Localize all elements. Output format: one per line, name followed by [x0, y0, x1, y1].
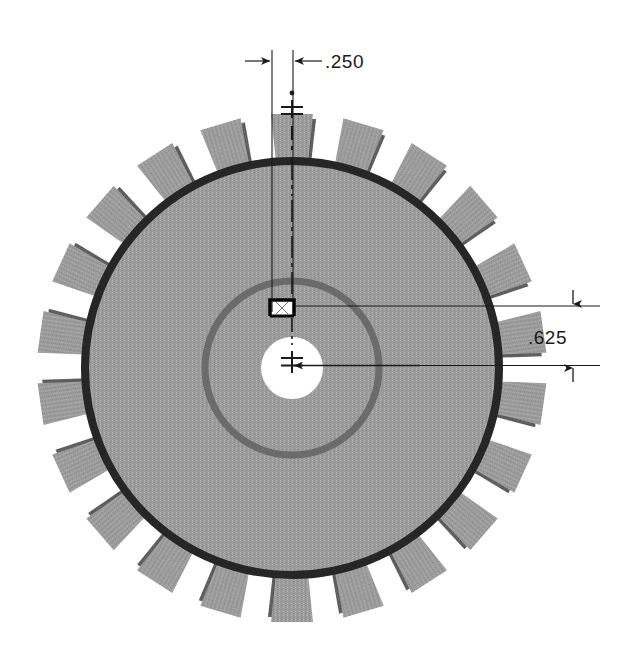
keyway — [270, 300, 294, 316]
dim-label-625: .625 — [528, 327, 567, 348]
drawing-canvas: .250 .625 — [0, 0, 630, 646]
gear-technical-drawing: .250 .625 — [0, 0, 630, 646]
dim-label-250: .250 — [325, 51, 364, 72]
